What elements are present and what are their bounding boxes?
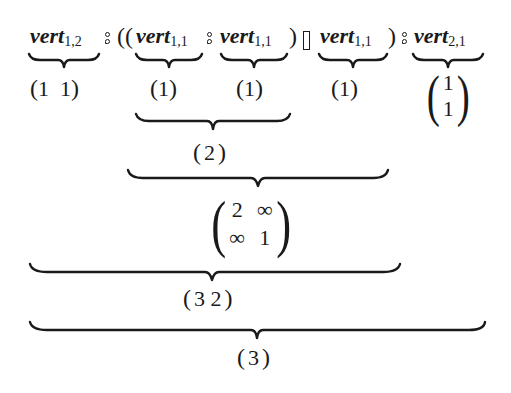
choice-operator (303, 28, 310, 50)
term-vert-2-1: vert2,1 (414, 25, 466, 53)
value-level4: (3 2) (183, 286, 233, 311)
underbrace-whole (29, 320, 486, 342)
term-vert-1-1-a: vert1,1 (136, 25, 188, 53)
value-term3: (1) (331, 76, 358, 101)
underbrace-term0 (28, 52, 100, 70)
value-term1: (1) (150, 76, 177, 101)
close-paren-2: ) (388, 24, 396, 48)
term-vert-1-2: vert1,2 (30, 25, 82, 53)
term-vert-1-1-b: vert1,1 (220, 25, 272, 53)
underbrace-seq-outer (29, 262, 401, 284)
value-term2: (1) (236, 76, 263, 101)
sequence-operator-3 (400, 28, 409, 50)
underbrace-seq-inner (135, 112, 291, 132)
underbrace-term2 (220, 52, 288, 70)
term-vert-1-1-c: vert1,1 (320, 25, 372, 53)
underbrace-term3 (318, 52, 388, 70)
close-paren-1: ) (289, 24, 297, 48)
value-matrix-2x2: ( 2∞ ∞1 ) (208, 192, 294, 256)
open-parens: (( (117, 24, 133, 48)
underbrace-term1 (135, 52, 203, 70)
value-level5: (3) (237, 345, 270, 370)
value-level2: (2) (193, 140, 226, 165)
sequence-operator-1 (103, 28, 112, 50)
sequence-operator-2 (205, 28, 214, 50)
value-row-vector-1-1: (1 1) (30, 76, 79, 101)
underbrace-choice (127, 168, 389, 190)
value-column-vector: ( 1 1 ) (424, 68, 472, 124)
